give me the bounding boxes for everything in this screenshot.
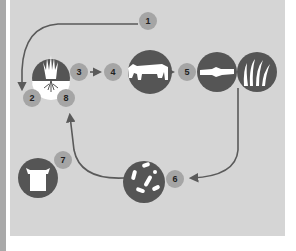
badge-5: 5 — [178, 63, 196, 81]
badge-1: 1 — [139, 12, 157, 30]
svg-text:5: 5 — [184, 67, 189, 77]
grass-icon — [237, 52, 277, 92]
badge-6: 6 — [166, 170, 184, 188]
cycle-diagram: 1 2 3 4 5 6 7 8 — [0, 0, 296, 251]
svg-text:4: 4 — [110, 67, 115, 77]
badge-8: 8 — [57, 89, 75, 107]
cow-icon — [128, 50, 172, 94]
badge-7: 7 — [54, 151, 72, 169]
badge-3: 3 — [70, 63, 88, 81]
svg-text:1: 1 — [145, 16, 150, 26]
svg-text:3: 3 — [76, 67, 81, 77]
badge-4: 4 — [104, 63, 122, 81]
svg-text:8: 8 — [63, 93, 68, 103]
log-icon — [197, 52, 237, 92]
bag-icon — [18, 158, 58, 198]
microbes-icon — [123, 161, 165, 203]
arrow-grass-to-6 — [192, 88, 238, 178]
svg-text:2: 2 — [29, 93, 34, 103]
svg-text:7: 7 — [60, 155, 65, 165]
svg-text:6: 6 — [172, 174, 177, 184]
badge-2: 2 — [23, 89, 41, 107]
arrow-microbes-to-8 — [70, 116, 124, 178]
